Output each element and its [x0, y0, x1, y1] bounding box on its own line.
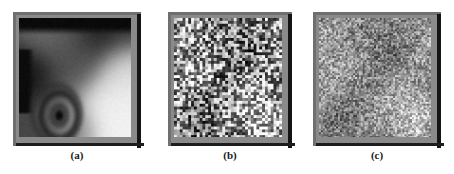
panel-c-shadow-bottom — [316, 143, 444, 146]
figure-container: (a) (b) (c) — [0, 0, 454, 174]
panel-b-canvas — [174, 18, 282, 137]
panel-b-shadow-right — [288, 14, 292, 148]
panel-c-shadow-right — [437, 14, 441, 148]
panel-a-shadow-right — [137, 14, 141, 148]
panel-c-canvas — [319, 18, 431, 137]
panel-a-shadow-bottom — [16, 143, 144, 146]
panel-b-caption: (b) — [168, 148, 292, 162]
panel-b-shadow-bottom — [171, 143, 295, 146]
panel-c — [313, 12, 441, 146]
panel-b-frame — [168, 12, 292, 146]
panel-a-caption: (a) — [13, 148, 141, 162]
panel-a-canvas — [19, 18, 131, 137]
panel-a — [13, 12, 141, 146]
panel-b — [168, 12, 292, 146]
panel-c-caption: (c) — [313, 148, 441, 162]
panel-c-image — [319, 18, 431, 137]
panel-a-frame — [13, 12, 141, 146]
panel-c-frame — [313, 12, 441, 146]
panel-a-image — [19, 18, 131, 137]
panel-b-image — [174, 18, 282, 137]
